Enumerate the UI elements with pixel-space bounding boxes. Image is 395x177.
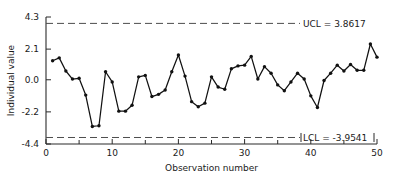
data-point: [316, 106, 319, 109]
data-point: [263, 65, 266, 68]
x-axis-tick-label: 40: [305, 148, 317, 158]
individuals-control-chart-plot: 4.32.10.0-2.2-4.401020304050UCL = 3.8617…: [0, 0, 395, 177]
data-point: [58, 56, 61, 59]
data-point: [216, 85, 219, 88]
data-point: [250, 55, 253, 58]
ucl-label: UCL = 3.8617: [303, 19, 366, 29]
y-axis-tick-label: -2.2: [21, 107, 39, 117]
data-point: [111, 80, 114, 83]
data-point: [91, 125, 94, 128]
data-point: [329, 72, 332, 75]
data-point: [124, 109, 127, 112]
data-point: [190, 100, 193, 103]
y-axis-title: Individual value: [6, 44, 16, 116]
data-point: [77, 77, 80, 80]
lcl-label: LCL = -3.9541: [303, 133, 367, 143]
data-point: [289, 80, 292, 83]
y-axis-tick-label: -4.4: [21, 139, 39, 149]
data-point: [117, 109, 120, 112]
control-chart: 4.32.10.0-2.2-4.401020304050UCL = 3.8617…: [0, 0, 395, 177]
data-point: [355, 69, 358, 72]
data-point: [349, 63, 352, 66]
x-axis-title: Observation number: [165, 163, 258, 173]
y-axis-tick-label: 4.3: [25, 12, 39, 22]
data-point: [369, 42, 372, 45]
data-point: [322, 79, 325, 82]
data-point: [336, 63, 339, 66]
data-point: [104, 70, 107, 73]
data-point: [269, 72, 272, 75]
data-point: [51, 59, 54, 62]
data-point: [302, 77, 305, 80]
data-point: [375, 55, 378, 58]
data-point: [243, 63, 246, 66]
x-axis-tick-label: 10: [106, 148, 118, 158]
data-point: [203, 101, 206, 104]
data-point: [144, 74, 147, 77]
x-axis-tick-label: 30: [239, 148, 251, 158]
data-point: [71, 77, 74, 80]
x-axis-tick-label: 20: [173, 148, 185, 158]
data-point: [309, 94, 312, 97]
data-point: [157, 93, 160, 96]
data-point: [97, 124, 100, 127]
x-axis-tick-label: 50: [371, 148, 383, 158]
data-point: [183, 74, 186, 77]
y-axis-tick-label: 2.1: [25, 44, 39, 54]
data-point: [170, 70, 173, 73]
data-point: [236, 64, 239, 67]
data-point: [342, 69, 345, 72]
data-point: [283, 89, 286, 92]
data-point: [137, 75, 140, 78]
data-point: [163, 88, 166, 91]
y-axis-tick-label: 0.0: [25, 75, 40, 85]
data-point: [130, 104, 133, 107]
data-point: [362, 69, 365, 72]
data-point: [197, 105, 200, 108]
data-point: [64, 69, 67, 72]
data-point: [84, 93, 87, 96]
data-point: [296, 72, 299, 75]
data-point: [276, 83, 279, 86]
data-point: [150, 95, 153, 98]
x-axis-tick-label: 0: [43, 148, 49, 158]
data-point: [177, 53, 180, 56]
data-point: [223, 88, 226, 91]
data-point: [210, 75, 213, 78]
data-point: [256, 77, 259, 80]
data-point: [230, 67, 233, 70]
